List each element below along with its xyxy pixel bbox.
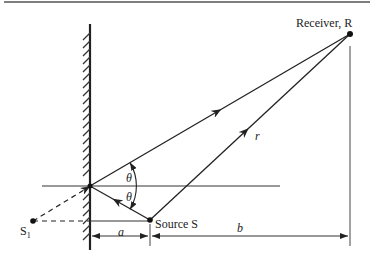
- image-path-dashed: [33, 190, 84, 221]
- image-source-letter: S: [20, 224, 27, 238]
- dimension-a-label: a: [118, 226, 124, 238]
- image-source-point: [30, 218, 36, 224]
- image-source-subscript: 1: [27, 231, 31, 240]
- reflection-point: [88, 184, 93, 189]
- source-label: Source S: [155, 218, 198, 230]
- image-source-label: S1: [20, 225, 31, 240]
- receiver-point: [347, 31, 353, 37]
- direct-ray: [150, 34, 350, 220]
- source-point: [147, 217, 153, 223]
- angle-lower-label: θ: [126, 191, 132, 203]
- dimension-b-label: b: [237, 222, 243, 234]
- incident-ray: [90, 186, 150, 220]
- distance-r-label: r: [255, 130, 260, 142]
- reflected-ray: [90, 34, 350, 186]
- angle-upper-label: θ: [126, 172, 132, 184]
- reflecting-wall: [83, 24, 90, 250]
- receiver-label: Receiver, R: [296, 17, 352, 29]
